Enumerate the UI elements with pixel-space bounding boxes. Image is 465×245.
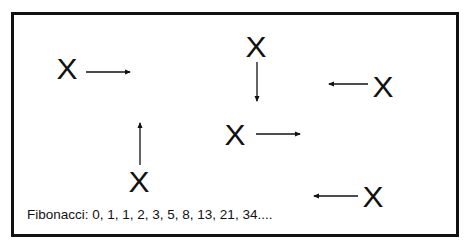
fibonacci-caption: Fibonacci: 0, 1, 1, 2, 3, 5, 8, 13, 21, … — [27, 207, 272, 222]
x-mark-3: X — [372, 72, 393, 102]
x-mark-1: X — [56, 54, 77, 84]
x-mark-5: X — [128, 167, 149, 197]
x-mark-4: X — [224, 120, 245, 150]
x-mark-6: X — [362, 182, 383, 212]
x-mark-2: X — [245, 32, 266, 62]
